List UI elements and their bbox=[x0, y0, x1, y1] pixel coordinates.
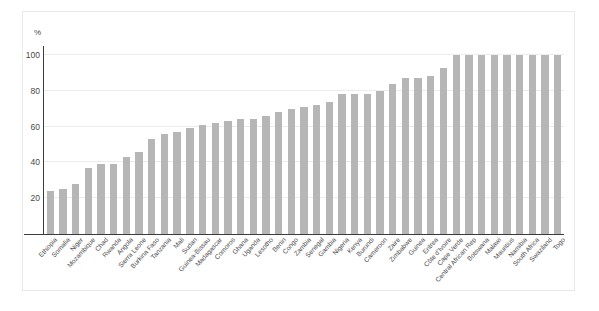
y-tick-label-40: 40 bbox=[0, 157, 40, 167]
y-axis-unit-label: % bbox=[34, 28, 41, 37]
y-tick-label-20: 20 bbox=[0, 193, 40, 203]
y-tick-label-100: 100 bbox=[0, 50, 40, 60]
y-tick-label-60: 60 bbox=[0, 122, 40, 132]
x-axis-category-labels: EthiopiaSomaliaNigerMozambiqueChadRwanda… bbox=[44, 0, 564, 311]
y-tick-label-80: 80 bbox=[0, 86, 40, 96]
y-axis-tick-labels: 10080604020 bbox=[0, 40, 40, 240]
bar-chart-figure: % 10080604020 EthiopiaSomaliaNigerMozamb… bbox=[0, 0, 599, 311]
